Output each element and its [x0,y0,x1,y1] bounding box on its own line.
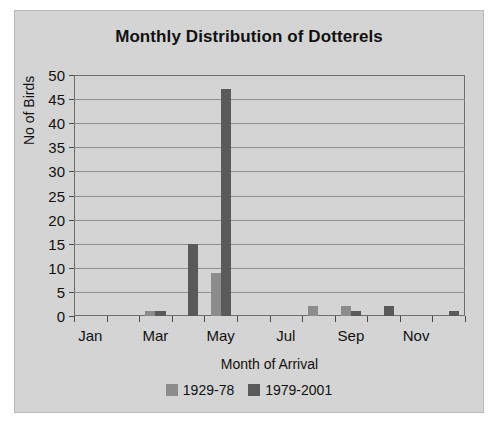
y-axis-tick-label: 20 [48,211,65,228]
x-axis-tick [465,316,466,322]
chart-container: Monthly Distribution of Dotterels No of … [14,10,484,413]
y-axis-tick [69,220,74,221]
gridline [74,196,465,197]
bar [221,89,231,316]
y-axis-tick-label: 15 [48,235,65,252]
x-axis-tick [107,316,108,322]
x-axis-tick [204,316,205,322]
x-axis-tick [74,316,75,322]
bar [145,311,155,316]
y-axis-tick-label: 40 [48,115,65,132]
y-axis-tick [69,292,74,293]
gridline [74,292,465,293]
y-axis-tick [69,244,74,245]
y-axis-title: No of Birds [21,76,37,145]
x-axis-tick-label: Jan [78,327,102,344]
gridline [74,123,465,124]
x-axis-tick-label: May [206,327,234,344]
y-axis-tick-label: 10 [48,259,65,276]
gridline [74,171,465,172]
x-axis-title: Month of Arrival [74,356,465,372]
bar [341,306,351,316]
legend-swatch-icon [248,384,260,396]
x-axis-tick-label: Sep [338,327,365,344]
bar [308,306,318,316]
gridline [74,147,465,148]
y-axis-tick-label: 45 [48,91,65,108]
x-axis-tick-label: Mar [143,327,169,344]
legend-label: 1979-2001 [265,382,332,398]
y-axis-tick [69,75,74,76]
chart-legend: 1929-781979-2001 [15,382,483,398]
x-axis-tick [302,316,303,322]
legend-item[interactable]: 1929-78 [166,382,234,398]
legend-label: 1929-78 [183,382,234,398]
plot-wrapper: 05101520253035404550 JanMarMayJulSepNov [74,75,465,316]
y-axis-tick-label: 50 [48,67,65,84]
gridline [74,268,465,269]
y-axis-tick [69,171,74,172]
x-axis-tick [335,316,336,322]
y-axis-tick-label: 5 [57,283,65,300]
legend-swatch-icon [166,384,178,396]
bar [384,306,394,316]
y-axis-tick-label: 30 [48,163,65,180]
x-axis-tick [400,316,401,322]
chart-title: Monthly Distribution of Dotterels [15,27,483,47]
bar [211,273,221,316]
bar [449,311,459,316]
y-axis-tick-label: 0 [57,308,65,325]
x-axis-tick [270,316,271,322]
y-axis-tick [69,99,74,100]
y-axis-tick-label: 25 [48,187,65,204]
legend-item[interactable]: 1979-2001 [248,382,332,398]
y-axis-tick-label: 35 [48,139,65,156]
gridline [74,99,465,100]
x-axis-tick [139,316,140,322]
y-axis-tick [69,196,74,197]
gridline [74,220,465,221]
bar [351,311,361,316]
x-axis-tick [367,316,368,322]
y-axis-tick [69,123,74,124]
x-axis-tick [172,316,173,322]
y-axis-tick [69,147,74,148]
x-axis-tick [432,316,433,322]
bar [188,244,198,316]
y-axis-tick [69,268,74,269]
x-axis-tick-label: Nov [403,327,430,344]
bar [155,311,165,316]
x-axis-tick [237,316,238,322]
x-axis-tick-label: Jul [276,327,295,344]
gridline [74,244,465,245]
